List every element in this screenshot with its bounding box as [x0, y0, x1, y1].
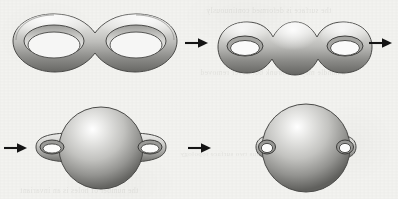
arrow-step-1-to-2 — [185, 37, 209, 49]
arrow-step-2-to-3 — [369, 37, 393, 49]
torus-hole-left-aperture — [231, 41, 260, 56]
torus-hole-right-aperture — [110, 32, 162, 58]
panel-plump-double-torus — [215, 14, 375, 82]
torus-hole-right-aperture — [331, 41, 360, 56]
handle-right-hole-aperture — [339, 143, 350, 152]
panel-flat-double-torus — [8, 8, 183, 84]
arrow-wrap-to-step-3 — [4, 142, 28, 154]
torus-hole-left-aperture — [28, 32, 80, 58]
handle-left-hole-aperture — [43, 144, 61, 153]
central-sphere — [59, 107, 143, 189]
handle-left-hole-aperture — [261, 143, 272, 152]
panel-sphere-with-small-handles — [242, 102, 370, 194]
panel-sphere-with-two-handles — [26, 104, 176, 192]
figure-root: Deformation of a genus-2 surface the sur… — [0, 0, 398, 199]
arrow-step-3-to-4 — [188, 142, 212, 154]
handle-right-hole-aperture — [141, 144, 159, 153]
